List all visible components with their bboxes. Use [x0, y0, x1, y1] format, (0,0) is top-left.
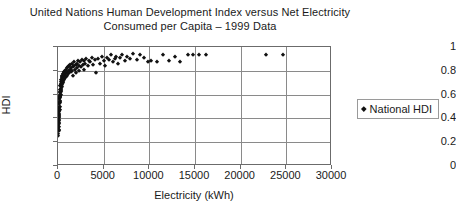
- x-tick-label: 0: [54, 169, 60, 181]
- y-tick-label: 0.8: [408, 64, 456, 76]
- scatter-point: [149, 59, 154, 64]
- scatter-point: [161, 53, 166, 58]
- scatter-point: [196, 53, 201, 58]
- scatter-point: [134, 58, 139, 63]
- plot-area: [57, 46, 331, 165]
- scatter-point: [264, 53, 269, 58]
- y-tick-mark: [53, 94, 57, 95]
- y-tick-mark: [53, 117, 57, 118]
- scatter-point: [94, 71, 99, 76]
- y-tick-label: 0.6: [408, 88, 456, 100]
- y-tick-label: 0: [408, 159, 456, 171]
- y-axis-title: HDI: [0, 96, 12, 115]
- x-tick-label: 10000: [133, 169, 164, 181]
- scatter-point: [116, 61, 121, 66]
- legend-label: National HDI: [370, 103, 432, 115]
- scatter-point: [128, 56, 133, 61]
- chart-title-line-2: Consumed per Capita – 1999 Data: [0, 19, 380, 33]
- scatter-point: [58, 134, 61, 139]
- scatter-point: [178, 60, 183, 65]
- y-tick-label: 0.2: [408, 135, 456, 147]
- scatter-point: [167, 59, 172, 64]
- scatter-point: [185, 53, 190, 58]
- y-tick-mark: [53, 141, 57, 142]
- scatter-point: [154, 60, 159, 65]
- x-tick-label: 5000: [90, 169, 114, 181]
- x-axis-title: Electricity (kWh): [57, 189, 331, 201]
- x-tick-label: 20000: [224, 169, 255, 181]
- y-tick-mark: [53, 46, 57, 47]
- x-tick-label: 25000: [270, 169, 301, 181]
- chart-figure: United Nations Human Development Index v…: [0, 0, 456, 221]
- scatter-point: [204, 53, 209, 58]
- scatter-point: [191, 53, 196, 58]
- x-tick-label: 30000: [316, 169, 347, 181]
- scatter-point: [141, 55, 146, 60]
- scatter-points-layer: [58, 47, 330, 164]
- scatter-point: [91, 62, 96, 67]
- scatter-point: [173, 54, 178, 59]
- y-tick-label: 1: [408, 40, 456, 52]
- legend: National HDI: [357, 99, 439, 119]
- scatter-point: [130, 52, 135, 57]
- chart-title: United Nations Human Development Index v…: [0, 5, 380, 33]
- legend-diamond-marker: [361, 106, 366, 111]
- chart-title-line-1: United Nations Human Development Index v…: [0, 5, 380, 19]
- x-tick-label: 15000: [179, 169, 210, 181]
- scatter-point: [103, 64, 108, 69]
- y-tick-mark: [53, 70, 57, 71]
- scatter-point: [81, 67, 86, 72]
- scatter-point: [280, 53, 285, 58]
